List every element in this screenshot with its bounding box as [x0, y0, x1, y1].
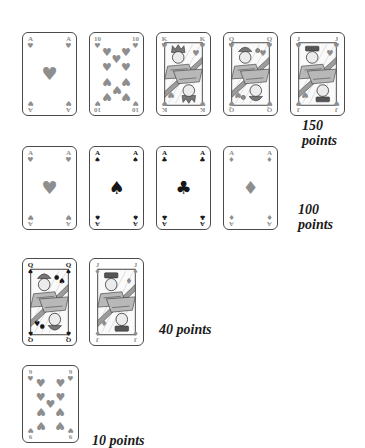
heart-icon: ♥ — [63, 157, 74, 164]
diamond-icon: ♦ — [264, 213, 275, 220]
corner-index: A♣ — [159, 213, 170, 227]
svg-text:♥: ♥ — [259, 48, 266, 58]
card-A-spade: A♠A♠A♠A♠♠ — [89, 146, 144, 230]
heart-icon: ♥ — [63, 213, 74, 220]
heart-icon: ♥ — [197, 99, 208, 106]
points-text: 10 points — [92, 433, 145, 448]
pinochle-melds-figure: A♥A♥A♥A♥♥10♥10♥10♥10♥♥♥♥♥♥♥♥♥♥♥K♥K♥K♥K♥♥… — [0, 0, 365, 448]
heart-icon: ♥ — [197, 43, 208, 50]
heart-icon: ♥ — [25, 213, 36, 220]
card-10-heart: 10♥10♥10♥10♥♥♥♥♥♥♥♥♥♥♥ — [89, 32, 144, 116]
diamond-icon: ♦ — [226, 213, 237, 220]
heart-icon: ♥ — [331, 99, 342, 106]
heart-icon: ♥ — [331, 43, 342, 50]
spade-icon: ♠ — [63, 329, 74, 336]
points-unit: points — [302, 133, 337, 148]
card-A-heart: A♥A♥A♥A♥♥ — [22, 32, 77, 116]
heart-icon: ♥ — [25, 157, 36, 164]
heart-pip: ♥ — [55, 392, 65, 403]
corner-index: A♥ — [25, 99, 36, 113]
corner-index: A♦ — [264, 150, 275, 164]
heart-icon: ♥ — [65, 426, 76, 433]
corner-index: A♠ — [130, 150, 141, 164]
corner-index: Q♥ — [226, 99, 237, 113]
corner-index: 9♥ — [65, 369, 76, 383]
corner-index: Q♥ — [264, 36, 275, 50]
heart-icon: ♥ — [159, 99, 170, 106]
heart-icon: ♥ — [226, 99, 237, 106]
corner-index: A♦ — [264, 213, 275, 227]
corner-index: A♥ — [25, 150, 36, 164]
spade-icon: ♠ — [63, 269, 74, 276]
heart-icon: ♥ — [92, 43, 103, 50]
heart-pip: ♥ — [41, 65, 57, 83]
heart-pip: ♥ — [46, 399, 56, 410]
corner-index: J♥ — [293, 99, 304, 113]
corner-index: K♥ — [159, 36, 170, 50]
club-icon: ♣ — [197, 213, 208, 220]
corner-index: 10♥ — [130, 36, 141, 50]
heart-pip: ♥ — [36, 419, 46, 430]
corner-index: A♠ — [130, 213, 141, 227]
heart-icon: ♥ — [264, 99, 275, 106]
spade-icon: ♠ — [25, 269, 36, 276]
diamond-icon: ♦ — [92, 269, 103, 276]
corner-index: A♥ — [63, 99, 74, 113]
diamond-icon: ♦ — [130, 269, 141, 276]
svg-text:♥: ♥ — [192, 48, 199, 58]
points-text: 40 points — [159, 322, 212, 337]
card-9-heart: 9♥9♥9♥9♥♥♥♥♥♥♥♥♥♥ — [22, 365, 79, 443]
heart-pip: ♥ — [102, 46, 112, 57]
card-K-heart: K♥K♥K♥K♥♥♥ — [156, 32, 211, 116]
points-unit: points — [298, 217, 333, 232]
heart-icon: ♥ — [159, 43, 170, 50]
club-icon: ♣ — [197, 157, 208, 164]
heart-pip: ♥ — [121, 76, 131, 87]
diamond-icon: ♦ — [130, 329, 141, 336]
heart-pip: ♥ — [36, 378, 46, 389]
card-row-2: A♥A♥A♥A♥♥A♠A♠A♠A♠♠A♣A♣A♣A♣♣A♦A♦A♦A♦♦ — [22, 146, 278, 230]
card-Q-spade: Q♠Q♠Q♠Q♠♠♠ — [22, 258, 77, 346]
heart-icon: ♥ — [293, 99, 304, 106]
spade-icon: ♠ — [130, 213, 141, 220]
card-row-1: A♥A♥A♥A♥♥10♥10♥10♥10♥♥♥♥♥♥♥♥♥♥♥K♥K♥K♥K♥♥… — [22, 32, 345, 116]
heart-pip: ♥ — [112, 54, 122, 65]
points-label-40: 40 points — [159, 322, 212, 337]
corner-index: J♦ — [130, 262, 141, 276]
heart-pip: ♥ — [102, 61, 112, 72]
diamond-pip: ♦ — [242, 179, 258, 197]
points-label-150: 150 points — [302, 118, 337, 148]
club-pip: ♣ — [175, 179, 191, 197]
card-A-club: A♣A♣A♣A♣♣ — [156, 146, 211, 230]
heart-icon: ♥ — [293, 43, 304, 50]
diamond-icon: ♦ — [92, 329, 103, 336]
corner-index: K♥ — [197, 99, 208, 113]
corner-index: 9♥ — [25, 426, 36, 440]
points-value: 150 — [302, 118, 337, 133]
corner-index: Q♠ — [25, 262, 36, 276]
heart-pip: ♥ — [36, 405, 46, 416]
corner-index: Q♥ — [264, 99, 275, 113]
heart-icon: ♥ — [226, 43, 237, 50]
corner-index: 9♥ — [25, 369, 36, 383]
corner-index: K♥ — [159, 99, 170, 113]
corner-index: J♦ — [130, 329, 141, 343]
heart-icon: ♥ — [264, 43, 275, 50]
corner-index: J♦ — [92, 329, 103, 343]
corner-index: 10♥ — [92, 36, 103, 50]
svg-text:♦: ♦ — [125, 275, 132, 285]
heart-pip: ♥ — [55, 419, 65, 430]
heart-icon: ♥ — [63, 43, 74, 50]
svg-text:♠: ♠ — [58, 275, 65, 285]
card-row-3: Q♠Q♠Q♠Q♠♠♠J♦J♦J♦J♦♦♦ — [22, 258, 144, 346]
heart-pip: ♥ — [36, 392, 46, 403]
heart-icon: ♥ — [25, 376, 36, 383]
heart-pip: ♥ — [102, 91, 112, 102]
points-label-100: 100 points — [298, 202, 333, 232]
corner-index: Q♥ — [226, 36, 237, 50]
heart-icon: ♥ — [130, 43, 141, 50]
card-A-heart: A♥A♥A♥A♥♥ — [22, 146, 77, 230]
heart-pip: ♥ — [102, 76, 112, 87]
card-row-4: 9♥9♥9♥9♥♥♥♥♥♥♥♥♥♥ — [22, 365, 79, 443]
heart-icon: ♥ — [65, 376, 76, 383]
